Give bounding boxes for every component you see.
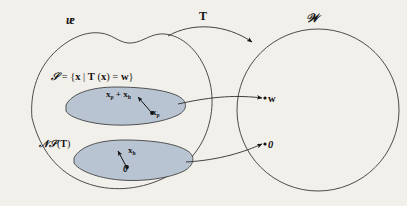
- point-zero-codomain: [263, 142, 266, 145]
- transformation-arrow: [168, 27, 252, 42]
- codomain-set-label: 𝒲: [306, 12, 319, 24]
- point-w: [263, 96, 266, 99]
- subscript-h: h: [133, 150, 136, 156]
- such-that-bar: |: [83, 71, 85, 82]
- image-vector-w-label: w: [268, 94, 276, 105]
- subscript-p: p: [111, 94, 114, 100]
- transformation-label: T: [199, 10, 207, 22]
- transformation-symbol: T: [88, 71, 95, 82]
- solution-set-definition: 𝒮 = {x | T (x) = w}: [51, 72, 134, 83]
- domain-set-label: ᵫ: [66, 14, 75, 26]
- mapping-arrow-to-w: [178, 96, 262, 104]
- null-space-paren-close: ): [67, 138, 70, 149]
- subscript-h: h: [128, 94, 131, 100]
- zero-vector-codomain-label: 0: [268, 140, 273, 151]
- null-space-symbol: 𝒩𝒮: [39, 138, 57, 149]
- close-paren: ): [106, 71, 110, 82]
- variable-x: x: [75, 71, 80, 82]
- subscript-p: p: [157, 112, 160, 118]
- null-space-label: 𝒩𝒮(T): [39, 139, 70, 149]
- equals-sign: = {: [62, 71, 76, 82]
- zero-vector-domain-label: 0: [123, 165, 128, 175]
- null-space-argument-T: T: [60, 138, 67, 149]
- vector-label-xp-plus-xh: xp + xh: [106, 90, 131, 100]
- equality: =: [112, 71, 118, 82]
- diagram-canvas: [0, 0, 407, 206]
- close-brace: }: [128, 71, 133, 82]
- vector-label-xp: xp: [152, 108, 160, 118]
- mapping-arrow-to-zero: [186, 144, 262, 162]
- codomain-set-outline: [237, 29, 399, 191]
- solution-set-symbol: 𝒮: [51, 71, 59, 82]
- linear-transformation-diagram: ᵫ 𝒲 T 𝒮 = {x | T (x) = w} 𝒩𝒮(T) xp + xh …: [0, 0, 407, 206]
- vector-label-xh: xh: [128, 146, 136, 156]
